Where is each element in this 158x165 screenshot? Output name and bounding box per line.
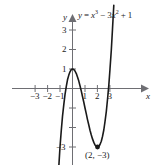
minimum-point-marker: [95, 145, 100, 150]
y-tick-label-1: 1: [62, 65, 67, 74]
equation-minus: −: [100, 10, 105, 20]
x-tick-label-1: 1: [83, 92, 88, 101]
x-tick-label-neg3: −3: [30, 92, 40, 101]
cubic-function-graph: y x y=x3−3x2+1 −3 −2 −1 1 2 3 3 2 1 −3 (…: [0, 0, 158, 165]
equation-plus: +: [121, 10, 126, 20]
equation-term1-exponent: 3: [95, 9, 98, 15]
y-axis: [69, 14, 77, 165]
y-axis-label: y: [63, 13, 67, 22]
y-tick-label-2: 2: [62, 45, 67, 54]
y-tick-label-neg3: −3: [56, 143, 66, 152]
equation-constant: 1: [128, 10, 133, 20]
x-axis-label: x: [146, 92, 150, 101]
equation-equals: =: [84, 10, 89, 20]
equation-lhs: y: [78, 10, 82, 20]
minimum-point-annotation: (2, −3): [85, 151, 110, 160]
x-tick-label-neg2: −2: [43, 92, 53, 101]
x-tick-label-2: 2: [95, 92, 100, 101]
equation-term2-exponent: 2: [116, 9, 119, 15]
y-tick-label-3: 3: [62, 26, 67, 35]
graph-canvas: [0, 0, 158, 165]
equation-label: y=x3−3x2+1: [78, 9, 132, 20]
x-tick-label-3: 3: [108, 92, 113, 101]
y-axis-arrowhead: [69, 14, 77, 22]
x-tick-label-neg1: −1: [55, 92, 65, 101]
